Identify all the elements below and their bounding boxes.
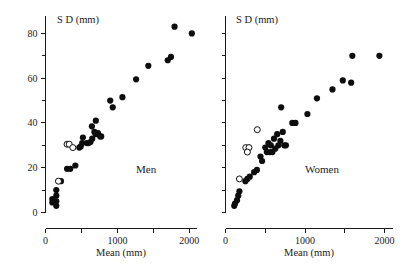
data-point-filled	[254, 167, 260, 173]
x-tick-label: 0	[223, 235, 228, 246]
x-axis-title-women: Mean (mm)	[284, 247, 334, 259]
data-point-filled	[278, 104, 284, 110]
data-point-filled	[80, 134, 86, 140]
data-point-filled	[283, 142, 289, 148]
data-point-filled	[72, 162, 78, 168]
data-point-open	[244, 149, 250, 155]
chart-panel-men: 020406080 010002000 S D (mm) Mean (mm) M…	[0, 0, 210, 268]
x-tick-label: 2000	[179, 235, 199, 246]
data-point-filled	[133, 76, 139, 82]
panel-label-men: Men	[136, 163, 157, 175]
y-tick-group-women	[222, 33, 226, 212]
axes-women	[226, 16, 393, 229]
y-tick-label: 80	[28, 28, 38, 39]
panel-label-women: Women	[305, 163, 339, 175]
data-point-filled	[145, 63, 151, 69]
data-point-filled	[53, 187, 59, 193]
scatter-plot-women: 010002000 S D (mm) Mean (mm) Women	[205, 0, 419, 268]
data-point-filled	[171, 24, 177, 30]
data-point-filled	[247, 174, 253, 180]
data-point-filled	[168, 54, 174, 60]
y-tick-label: 20	[28, 162, 38, 173]
data-point-filled	[349, 53, 355, 59]
y-tick-label: 40	[28, 117, 38, 128]
figure-container: 020406080 010002000 S D (mm) Mean (mm) M…	[0, 0, 419, 268]
x-tick-label: 2000	[375, 235, 395, 246]
data-point-group-men	[49, 24, 195, 209]
x-tick-label: 1000	[107, 235, 127, 246]
data-point-filled	[340, 77, 346, 83]
data-point-filled	[53, 203, 59, 209]
data-point-filled	[119, 94, 125, 100]
y-tick-label-group-men: 020406080	[28, 28, 38, 218]
data-point-filled	[376, 53, 382, 59]
data-point-filled	[236, 188, 242, 194]
data-point-group-women	[231, 53, 382, 209]
y-axis-title-men: S D (mm)	[57, 14, 100, 26]
data-point-filled	[189, 30, 195, 36]
data-point-filled	[93, 118, 99, 124]
data-point-filled	[98, 133, 104, 139]
data-point-filled	[274, 131, 280, 137]
axes-men	[46, 16, 197, 229]
data-point-filled	[107, 97, 113, 103]
data-point-filled	[89, 123, 95, 129]
data-point-open	[236, 176, 242, 182]
x-tick-label: 1000	[295, 235, 315, 246]
x-tick-label-group-women: 010002000	[223, 235, 395, 246]
y-axis-title-women: S D (mm)	[236, 14, 279, 26]
y-tick-label: 0	[33, 207, 38, 218]
data-point-filled	[110, 104, 116, 110]
data-point-open	[254, 127, 260, 133]
data-point-filled	[304, 111, 310, 117]
data-point-filled	[292, 120, 298, 126]
data-point-filled	[53, 193, 59, 199]
x-tick-group-women	[226, 229, 385, 234]
data-point-filled	[348, 80, 354, 86]
data-point-filled	[314, 95, 320, 101]
x-tick-group-men	[46, 229, 190, 234]
x-tick-label-group-men: 010002000	[43, 235, 199, 246]
data-point-filled	[280, 129, 286, 135]
y-tick-group-men	[41, 33, 46, 212]
x-tick-label: 0	[43, 235, 48, 246]
data-point-open	[55, 178, 61, 184]
scatter-plot-men: 020406080 010002000 S D (mm) Mean (mm) M…	[0, 0, 210, 268]
data-point-filled	[329, 86, 335, 92]
y-tick-label: 60	[28, 73, 38, 84]
data-point-open	[70, 145, 76, 151]
chart-panel-women: 010002000 S D (mm) Mean (mm) Women	[205, 0, 419, 268]
data-point-filled	[259, 158, 265, 164]
x-axis-title-men: Mean (mm)	[96, 247, 146, 259]
